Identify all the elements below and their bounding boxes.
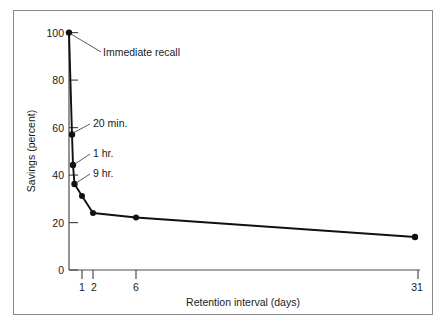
y-tick-label-80: 80 bbox=[52, 74, 64, 86]
y-axis-title: Savings (percent) bbox=[25, 110, 37, 192]
y-tick-label-40: 40 bbox=[52, 169, 64, 181]
data-point-1-hr bbox=[70, 162, 76, 168]
annotation-leader-lines bbox=[71, 34, 101, 183]
leader-line-immediate-recall bbox=[71, 34, 101, 52]
x-axis-title: Retention interval (days) bbox=[186, 296, 300, 308]
forgetting-curve-figure: 100 80 60 40 20 0 1 2 6 31 bbox=[0, 0, 447, 328]
y-tick-label-0: 0 bbox=[58, 264, 64, 276]
chart-canvas: 100 80 60 40 20 0 1 2 6 31 bbox=[0, 0, 447, 328]
data-point-2-days bbox=[90, 210, 96, 216]
x-tick-label-31: 31 bbox=[411, 281, 423, 293]
y-tick-labels: 100 80 60 40 20 0 bbox=[46, 27, 64, 277]
data-point-immediate-recall bbox=[66, 29, 72, 35]
leader-line-1-hr bbox=[75, 154, 90, 164]
y-tick-label-100: 100 bbox=[46, 27, 64, 39]
x-tick-marks bbox=[82, 270, 418, 279]
leader-line-9-hr bbox=[76, 174, 90, 183]
annotation-immediate-recall: Immediate recall bbox=[103, 46, 180, 58]
x-tick-labels: 1 2 6 31 bbox=[79, 281, 423, 293]
data-point-6-days bbox=[133, 215, 139, 221]
x-tick-label-2: 2 bbox=[91, 281, 97, 293]
annotation-labels: Immediate recall 20 min. 1 hr. 9 hr. bbox=[93, 46, 180, 179]
forgetting-curve-line bbox=[69, 33, 415, 237]
y-tick-label-60: 60 bbox=[52, 122, 64, 134]
y-tick-label-20: 20 bbox=[52, 217, 64, 229]
x-tick-label-6: 6 bbox=[133, 281, 139, 293]
leader-line-20-min bbox=[73, 124, 90, 133]
annotation-20-min: 20 min. bbox=[93, 117, 127, 129]
annotation-1-hr: 1 hr. bbox=[93, 147, 113, 159]
annotation-9-hr: 9 hr. bbox=[93, 167, 113, 179]
data-point-31-days bbox=[412, 234, 418, 240]
data-point-1-day bbox=[79, 193, 85, 199]
x-tick-label-1: 1 bbox=[79, 281, 85, 293]
data-point-9-hr bbox=[71, 181, 77, 187]
data-points-group bbox=[66, 29, 418, 240]
